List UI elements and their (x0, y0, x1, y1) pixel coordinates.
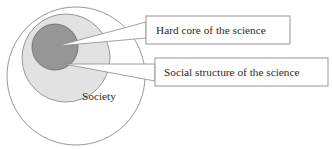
science-society-diagram: Hard core of the science Social structur… (0, 0, 332, 149)
hard-core-circle (32, 24, 78, 70)
diagram-canvas: Hard core of the science Social structur… (0, 0, 332, 149)
hard-core-callout-label: Hard core of the science (156, 24, 266, 36)
society-label: Society (82, 90, 116, 102)
social-structure-callout-label: Social structure of the science (164, 66, 300, 78)
